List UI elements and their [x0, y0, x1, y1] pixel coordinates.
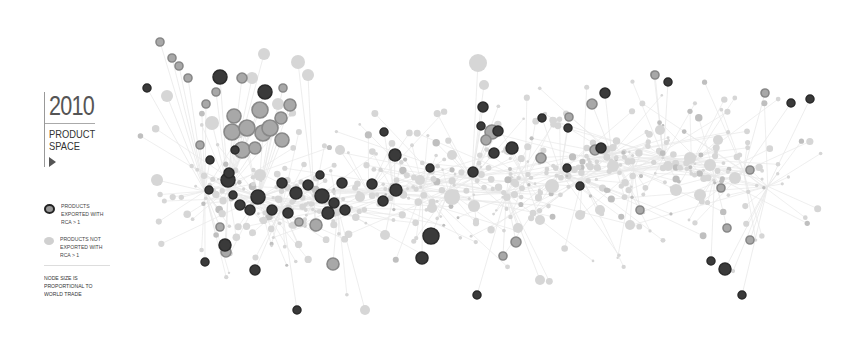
legend-item-exported: PRODUCTS EXPORTED WITH RCA > 1	[44, 202, 121, 226]
product-node-exported-partial	[284, 99, 296, 111]
product-node-exported-partial	[636, 206, 644, 214]
product-node-exported	[251, 190, 265, 204]
product-node-not-exported	[469, 54, 487, 72]
product-node-exported	[250, 265, 260, 275]
product-node-exported	[564, 124, 572, 132]
product-node-exported-partial	[746, 236, 754, 244]
product-node-not-exported	[161, 90, 173, 102]
product-node-exported-partial	[499, 252, 507, 260]
product-node-not-exported	[663, 161, 673, 171]
product-node-not-exported	[670, 184, 682, 196]
product-node-exported	[506, 142, 518, 154]
product-node-not-exported	[713, 135, 723, 145]
product-node-exported-partial	[184, 74, 192, 82]
product-node-exported	[390, 184, 402, 196]
product-node-exported-partial	[481, 135, 491, 145]
product-node-not-exported	[380, 230, 390, 240]
product-node-exported	[205, 186, 213, 194]
product-node-not-exported	[694, 189, 706, 201]
product-node-exported-partial	[212, 88, 220, 96]
product-node-exported-partial	[216, 223, 224, 231]
product-node-not-exported	[545, 179, 559, 193]
product-node-exported	[596, 143, 606, 153]
product-node-not-exported	[444, 189, 460, 205]
product-node-not-exported	[258, 48, 270, 60]
product-node-exported	[806, 95, 814, 103]
product-node-not-exported	[468, 200, 480, 212]
product-node-exported-partial	[168, 54, 176, 62]
product-node-exported	[245, 205, 255, 215]
product-node-exported-partial	[651, 71, 659, 79]
product-node-not-exported	[447, 150, 457, 160]
product-node-not-exported	[272, 98, 284, 110]
product-node-exported	[229, 191, 237, 199]
network-ring-nodes	[156, 38, 769, 270]
exported-swatch-icon	[44, 204, 55, 214]
product-node-exported	[468, 167, 478, 177]
product-node-not-exported	[291, 55, 305, 69]
product-node-exported	[329, 198, 339, 208]
product-node-not-exported	[415, 175, 425, 185]
product-node-not-exported	[595, 205, 605, 215]
product-node-exported-partial	[196, 141, 204, 149]
product-node-exported	[143, 84, 151, 92]
product-space-network	[0, 0, 862, 344]
product-node-not-exported	[479, 80, 489, 90]
product-node-not-exported	[335, 145, 345, 155]
product-node-exported-partial	[279, 84, 287, 92]
title-block: 2010 PRODUCT SPACE	[44, 92, 124, 167]
product-node-exported-partial	[252, 102, 268, 118]
product-node-exported	[787, 99, 795, 107]
product-node-exported	[219, 239, 231, 251]
product-node-not-exported	[625, 220, 635, 230]
product-node-exported-partial	[237, 73, 247, 83]
product-node-exported-partial	[511, 237, 521, 247]
product-node-exported	[576, 182, 584, 190]
play-arrow-icon[interactable]	[49, 157, 56, 167]
product-node-exported	[489, 148, 499, 158]
product-node-exported-partial	[275, 133, 289, 147]
product-node-exported	[201, 258, 209, 266]
product-node-not-exported	[302, 69, 314, 81]
product-node-not-exported	[704, 159, 716, 171]
legend-not-exported-label: PRODUCTS NOT EXPORTED WITH RCA > 1	[60, 235, 111, 259]
product-node-exported	[293, 306, 301, 314]
product-node-exported	[380, 128, 388, 136]
product-node-exported-partial	[565, 113, 573, 121]
product-node-exported-partial	[723, 224, 731, 232]
product-node-exported-partial	[717, 184, 725, 192]
title-line-2: SPACE	[49, 140, 113, 152]
title-rule	[45, 123, 95, 124]
year-label: 2010	[49, 92, 109, 120]
product-node-exported	[277, 178, 287, 188]
product-node-exported-partial	[587, 99, 597, 109]
product-node-exported	[563, 164, 571, 172]
product-node-exported	[235, 200, 245, 210]
product-node-exported	[322, 207, 334, 219]
product-node-not-exported	[205, 116, 219, 130]
product-node-exported	[719, 263, 731, 275]
product-node-exported	[267, 205, 277, 215]
product-node-exported-partial	[224, 124, 240, 140]
product-node-exported	[231, 146, 239, 154]
product-node-not-exported	[360, 305, 370, 315]
product-node-exported	[337, 178, 347, 188]
product-node-exported	[389, 149, 401, 161]
product-node-exported-partial	[227, 109, 241, 123]
product-node-exported	[423, 228, 439, 244]
product-node-not-exported	[655, 125, 665, 135]
legend-divider	[44, 265, 110, 266]
product-node-not-exported	[535, 215, 545, 225]
product-node-exported	[707, 257, 715, 265]
product-node-not-exported	[607, 160, 619, 172]
product-node-exported-partial	[249, 142, 261, 154]
product-node-exported	[493, 126, 503, 136]
product-node-exported	[664, 78, 672, 86]
node-size-note: NODE SIZE IS PROPORTIONAL TO WORLD TRADE	[44, 274, 112, 298]
product-node-not-exported	[355, 192, 365, 202]
product-node-not-exported	[729, 172, 741, 184]
product-node-exported-partial	[275, 112, 287, 124]
product-node-exported-partial	[327, 258, 339, 270]
product-node-not-exported	[254, 169, 266, 181]
product-node-exported	[258, 85, 272, 99]
